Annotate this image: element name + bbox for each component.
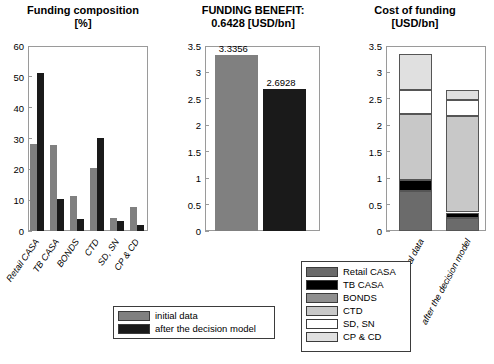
y-tick-label: 1.5 xyxy=(353,146,382,157)
bar-bonds-after xyxy=(77,219,84,231)
legend-label: SD, SN xyxy=(343,318,375,329)
legend-swatch xyxy=(306,280,338,290)
y-tick-label: 3 xyxy=(172,67,201,78)
y-tick-label: 2.5 xyxy=(353,93,382,104)
bar-sd-sn-after xyxy=(117,221,124,231)
bar-value-label: 2.6928 xyxy=(266,77,295,88)
stack-segment-cp-cd xyxy=(446,90,479,101)
stack-segment-ctd xyxy=(399,114,432,181)
y-tick-label: 2 xyxy=(353,120,382,131)
legend-label: CTD xyxy=(343,305,363,316)
y-tick-label: 60 xyxy=(0,41,24,52)
legend-swatch xyxy=(118,311,150,321)
stack-segment-sd-sn xyxy=(399,90,432,113)
y-tick-label: 3.5 xyxy=(353,41,382,52)
y-tick-label: 0 xyxy=(172,226,201,237)
category-legend-row[interactable]: TB CASA xyxy=(302,278,410,291)
chart2-title: FUNDING BENEFIT: 0.6428 [USD/bn] xyxy=(178,4,328,30)
y-tick xyxy=(205,72,209,73)
y-tick-label: 0.5 xyxy=(353,199,382,210)
y-tick-label: 10 xyxy=(0,195,24,206)
chart3-title-text: Cost of funding xyxy=(374,4,455,16)
category-legend-row[interactable]: SD, SN xyxy=(302,317,410,330)
y-tick-label: 1 xyxy=(172,173,201,184)
stack-segment-ctd xyxy=(446,116,479,212)
chart2-subtitle-text: 0.6428 [USD/bn] xyxy=(211,17,295,29)
chart3-title: Cost of funding [USD/bn] xyxy=(340,4,490,30)
chart3-subtitle-text: [USD/bn] xyxy=(391,17,438,29)
category-legend-row[interactable]: BONDS xyxy=(302,291,410,304)
series-legend-row[interactable]: after the decision model xyxy=(114,322,274,335)
y-tick-label: 3.5 xyxy=(172,41,201,52)
legend-swatch xyxy=(306,293,338,303)
y-tick xyxy=(386,46,390,47)
y-tick-label: 3 xyxy=(353,67,382,78)
legend-label: Retail CASA xyxy=(343,266,396,277)
y-tick xyxy=(205,125,209,126)
y-tick-label: 20 xyxy=(0,164,24,175)
chart1-subtitle-text: [%] xyxy=(74,17,91,29)
chart1-title: Funding composition [%] xyxy=(8,4,158,30)
series-legend: initial dataafter the decision model xyxy=(113,306,275,339)
bar-cp-cd-initial xyxy=(130,207,137,231)
legend-swatch xyxy=(118,324,150,334)
stack-segment-tb-casa xyxy=(399,180,432,191)
bar-retail-casa-initial xyxy=(30,144,37,231)
bar-tb-casa-after xyxy=(57,199,64,231)
category-legend-row[interactable]: CTD xyxy=(302,304,410,317)
series-legend-row[interactable]: initial data xyxy=(114,309,274,322)
y-tick-label: 40 xyxy=(0,102,24,113)
benefit-bar-initial xyxy=(215,55,258,231)
y-tick xyxy=(28,138,32,139)
y-tick xyxy=(28,46,32,47)
chart1-plot-area xyxy=(28,46,148,231)
y-tick xyxy=(386,125,390,126)
legend-label: BONDS xyxy=(343,292,377,303)
y-tick-label: 0 xyxy=(353,226,382,237)
y-tick xyxy=(386,72,390,73)
y-tick-label: 30 xyxy=(0,133,24,144)
legend-swatch xyxy=(306,306,338,316)
chart1-title-text: Funding composition xyxy=(27,4,139,16)
y-tick xyxy=(28,76,32,77)
stack-segment-tb-casa xyxy=(446,213,479,218)
category-legend-row[interactable]: Retail CASA xyxy=(302,265,410,278)
stack-segment-cp-cd xyxy=(399,54,432,90)
y-tick-label: 1.5 xyxy=(172,146,201,157)
legend-label: initial data xyxy=(155,310,198,321)
y-tick-label: 2.5 xyxy=(172,93,201,104)
bar-retail-casa-after xyxy=(37,73,44,231)
y-tick xyxy=(205,231,209,232)
benefit-bar-after xyxy=(263,89,306,231)
bar-ctd-after xyxy=(97,138,104,231)
stack-segment-sd-sn xyxy=(446,100,479,116)
legend-swatch xyxy=(306,332,338,342)
y-tick-label: 1 xyxy=(353,173,382,184)
legend-swatch xyxy=(306,319,338,329)
y-tick xyxy=(386,151,390,152)
category-legend-row[interactable]: CP & CD xyxy=(302,330,410,343)
y-tick xyxy=(205,178,209,179)
y-tick-label: 2 xyxy=(172,120,201,131)
y-tick xyxy=(205,46,209,47)
bar-bonds-initial xyxy=(70,196,77,231)
legend-label: CP & CD xyxy=(343,331,381,342)
y-tick xyxy=(386,178,390,179)
bar-ctd-initial xyxy=(90,168,97,231)
y-tick xyxy=(28,107,32,108)
y-tick xyxy=(205,204,209,205)
bar-sd-sn-initial xyxy=(110,218,117,231)
x-tick-label: CTD xyxy=(82,237,101,258)
stack-segment-retail-casa xyxy=(446,218,479,231)
bar-value-label: 3.3356 xyxy=(219,43,248,54)
x-tick-label: after the decision model xyxy=(419,237,473,326)
bar-tb-casa-initial xyxy=(50,145,57,231)
y-tick xyxy=(205,151,209,152)
y-tick xyxy=(386,98,390,99)
y-tick-label: 50 xyxy=(0,71,24,82)
chart2-title-text: FUNDING BENEFIT: xyxy=(202,4,305,16)
legend-swatch xyxy=(306,267,338,277)
bar-cp-cd-after xyxy=(137,225,144,231)
legend-label: after the decision model xyxy=(155,323,256,334)
y-tick-label: 0.5 xyxy=(172,199,201,210)
